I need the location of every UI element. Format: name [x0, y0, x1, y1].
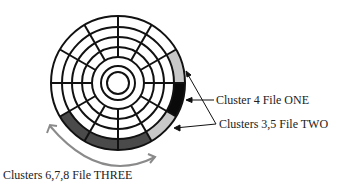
label-clusters-3-5-file-two: Clusters 3,5 File TWO [219, 117, 328, 131]
label-clusters-6-7-8-file-three: Clusters 6,7,8 File THREE [3, 168, 132, 182]
disk [51, 16, 185, 150]
label-cluster-4-file-one: Cluster 4 File ONE [216, 93, 309, 107]
